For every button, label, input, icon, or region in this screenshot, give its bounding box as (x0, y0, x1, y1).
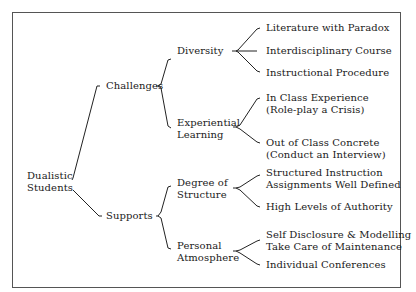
node-degree-of-structure: Degree of Structure (177, 177, 228, 201)
outclass-line2: (Conduct an Interview) (266, 149, 386, 161)
node-root: Dualistic Students (27, 170, 73, 194)
personal-line2: Atmosphere (177, 252, 239, 264)
leaf-high-levels-of-authority: High Levels of Authority (266, 201, 393, 213)
degree-line2: Structure (177, 189, 228, 201)
leaf-in-class-experience: In Class Experience (Role-play a Crisis) (266, 92, 369, 116)
leaf-self-disclosure-modelling: Self Disclosure & Modelling Take Care of… (266, 229, 411, 253)
leaf-structured-instruction: Structured Instruction Assignments Well … (266, 167, 401, 191)
node-experiential-learning: Experiential Learning (177, 117, 240, 141)
inclass-line2: (Role-play a Crisis) (266, 104, 369, 116)
self-line1: Self Disclosure & Modelling (266, 229, 411, 241)
self-line2: Take Care of Maintenance (266, 241, 411, 253)
leaf-out-of-class-concrete: Out of Class Concrete (Conduct an Interv… (266, 137, 386, 161)
node-personal-atmosphere: Personal Atmosphere (177, 240, 239, 264)
node-supports: Supports (106, 210, 153, 222)
leaf-interdisciplinary-course: Interdisciplinary Course (266, 45, 392, 57)
leaf-individual-conferences: Individual Conferences (266, 259, 386, 271)
degree-line1: Degree of (177, 177, 228, 189)
struct-line1: Structured Instruction (266, 167, 401, 179)
leaf-literature-with-paradox: Literature with Paradox (266, 22, 390, 34)
root-label-line2: Students (27, 182, 73, 194)
experiential-line2: Learning (177, 129, 240, 141)
outclass-line1: Out of Class Concrete (266, 137, 386, 149)
struct-line2: Assignments Well Defined (266, 179, 401, 191)
personal-line1: Personal (177, 240, 239, 252)
node-challenges: Challenges (106, 80, 163, 92)
leaf-instructional-procedure: Instructional Procedure (266, 67, 389, 79)
experiential-line1: Experiential (177, 117, 240, 129)
inclass-line1: In Class Experience (266, 92, 369, 104)
root-label-line1: Dualistic (27, 170, 73, 182)
node-diversity: Diversity (177, 45, 223, 57)
